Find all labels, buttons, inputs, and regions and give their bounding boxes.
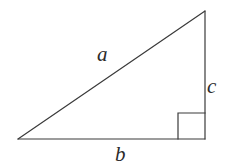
right-triangle-figure: a b c [0, 0, 229, 167]
hypotenuse-line-a [18, 11, 205, 139]
base-label-b: b [115, 144, 126, 165]
hypotenuse-label-a: a [97, 44, 108, 65]
right-angle-marker-icon [178, 113, 205, 139]
vertical-label-c: c [207, 76, 216, 97]
